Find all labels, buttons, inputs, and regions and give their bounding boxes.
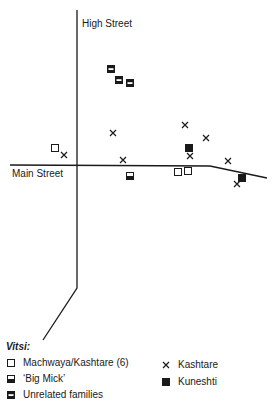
high-street-label: High Street bbox=[82, 18, 132, 30]
big-mick-marker bbox=[126, 173, 134, 181]
kashtare-marker bbox=[225, 158, 231, 164]
machwaya-kashtare-marker bbox=[185, 168, 192, 175]
legend-item-big-mick: ‘Big Mick’ bbox=[7, 373, 65, 385]
kashtare-marker bbox=[120, 157, 126, 163]
unrelated-family-marker bbox=[107, 65, 115, 73]
machwaya-kashtare-marker bbox=[175, 169, 182, 176]
legend-label: Machwaya/Kashtare (6) bbox=[23, 357, 129, 369]
legend-label: ‘Big Mick’ bbox=[23, 373, 65, 385]
bottom-filled-square-icon bbox=[7, 375, 15, 383]
legend-item-unrelated-families: Unrelated families bbox=[7, 389, 103, 401]
legend-label: Unrelated families bbox=[23, 389, 103, 401]
cross-icon bbox=[162, 361, 170, 369]
unrelated-family-marker bbox=[115, 76, 123, 84]
legend-item-kashtare: Kashtare bbox=[162, 359, 218, 371]
street-map bbox=[0, 0, 275, 411]
open-square-icon bbox=[7, 359, 15, 367]
main-street-label: Main Street bbox=[12, 168, 63, 180]
kashtare-marker bbox=[110, 130, 116, 136]
machwaya-kashtare-marker bbox=[52, 145, 59, 152]
filled-square-icon bbox=[162, 378, 170, 386]
legend-item-machwaya-kashtare: Machwaya/Kashtare (6) bbox=[7, 357, 129, 369]
kashtare-marker bbox=[182, 122, 188, 128]
kashtare-marker bbox=[61, 152, 67, 158]
unrelated-family-marker bbox=[126, 79, 134, 87]
legend-label: Kuneshti bbox=[178, 376, 217, 388]
kashtare-marker bbox=[203, 135, 209, 141]
legend-label: Kashtare bbox=[178, 359, 218, 371]
kashtare-marker bbox=[187, 153, 193, 159]
kuneshti-marker bbox=[238, 174, 246, 182]
banded-square-icon bbox=[7, 391, 15, 399]
household-markers bbox=[52, 65, 247, 187]
legend-title: Vitsi: bbox=[6, 341, 30, 352]
kuneshti-marker bbox=[185, 144, 193, 152]
legend-item-kuneshti: Kuneshti bbox=[162, 376, 217, 388]
